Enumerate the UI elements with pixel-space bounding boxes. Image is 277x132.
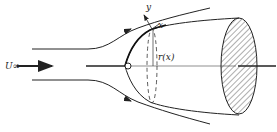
freestream-velocity: U∞ <box>5 61 52 71</box>
y-axis-arrow-icon <box>144 15 152 29</box>
cross-section-hatched <box>221 18 257 114</box>
upper-streamline <box>32 8 210 49</box>
radius-label: r(x) <box>158 52 175 62</box>
lower-streamline <box>32 80 210 124</box>
stagnation-point <box>125 63 131 69</box>
paraboloid-flow-diagram: U∞ r(x) y x <box>0 0 277 132</box>
x-axis-label: x <box>158 20 163 30</box>
y-axis-label: y <box>145 2 152 12</box>
